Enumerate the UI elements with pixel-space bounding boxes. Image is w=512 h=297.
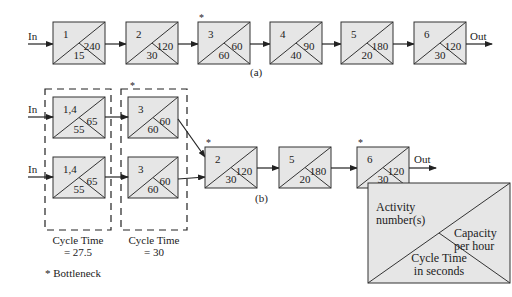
diagram-a-station-2-activity-number: 2 — [136, 28, 142, 40]
parallel-group-1-cycle-time-value: = 27.5 — [48, 246, 108, 258]
diagram-b-input-label-1: In — [28, 103, 37, 115]
bottleneck-note: * Bottleneck — [45, 267, 101, 279]
diagram-b-group-1-station-1-activity-number: 1,4 — [63, 103, 77, 115]
diagram-b-merge-arrow-bottom — [178, 177, 205, 179]
diagram-b-serial-station-3-cycle-time: 30 — [371, 173, 395, 185]
legend-cycle-time-label-2: in seconds — [408, 265, 470, 278]
diagram-b-caption: (b) — [255, 192, 268, 204]
diagram-a-station-1-activity-number: 1 — [63, 28, 69, 40]
diagram-b-group-1-station-2-cycle-time: 55 — [67, 183, 91, 195]
diagram-a-station-4-activity-number: 4 — [280, 28, 286, 40]
parallel-group-2-bottleneck-marker: * — [130, 80, 135, 92]
diagram-b-group-1-station-2-activity-number: 1,4 — [63, 163, 77, 175]
parallel-group-1-cycle-time-label: Cycle Time — [48, 234, 108, 246]
diagram-b-group-2-station-2-activity-number: 3 — [138, 163, 144, 175]
diagram-b-group-2-station-1-activity-number: 3 — [138, 103, 144, 115]
diagram-b-serial-station-1-cycle-time: 30 — [219, 173, 243, 185]
diagram-b-merge-arrow-top — [178, 119, 205, 157]
diagram-a-output-label: Out — [470, 30, 487, 42]
diagram-b-group-1-station-1-cycle-time: 55 — [67, 123, 91, 135]
diagram-a-station-5-cycle-time: 20 — [355, 49, 379, 61]
diagram-a-station-3-activity-number: 3 — [208, 28, 214, 40]
diagram-a-station-1-cycle-time: 15 — [67, 49, 91, 61]
diagram-a-station-4-cycle-time: 40 — [284, 49, 308, 61]
diagram-b-group-2-station-2-cycle-time: 60 — [141, 183, 165, 195]
diagram-a-station-2-cycle-time: 30 — [140, 49, 164, 61]
legend-activity-label-2: number(s) — [376, 214, 425, 227]
diagram-a-station-5-activity-number: 5 — [351, 28, 357, 40]
diagram-b-input-label-2: In — [28, 163, 37, 175]
diagram-b-serial-station-3-bottleneck-marker: * — [358, 137, 363, 149]
diagram-b-serial-station-3-activity-number: 6 — [367, 153, 373, 165]
parallel-group-2-cycle-time-label: Cycle Time — [124, 234, 184, 246]
diagram-a-station-6-activity-number: 6 — [424, 28, 430, 40]
diagram-a-caption: (a) — [250, 66, 262, 78]
diagram-b-group-2-station-1-cycle-time: 60 — [141, 123, 165, 135]
diagram-a-input-label: In — [28, 30, 37, 42]
diagram-b-output-label: Out — [414, 153, 431, 165]
diagram-b-serial-station-2-activity-number: 5 — [289, 153, 295, 165]
diagram-a-station-6-cycle-time: 30 — [428, 49, 452, 61]
parallel-group-2-cycle-time-value: = 30 — [124, 246, 184, 258]
diagram-a-station-3-bottleneck-marker: * — [199, 12, 204, 24]
diagram-b-serial-station-1-activity-number: 2 — [215, 153, 221, 165]
diagram-a-station-3-cycle-time: 60 — [212, 49, 236, 61]
diagram-b-serial-station-1-bottleneck-marker: * — [206, 137, 211, 149]
diagram-b-serial-station-2-cycle-time: 20 — [293, 173, 317, 185]
